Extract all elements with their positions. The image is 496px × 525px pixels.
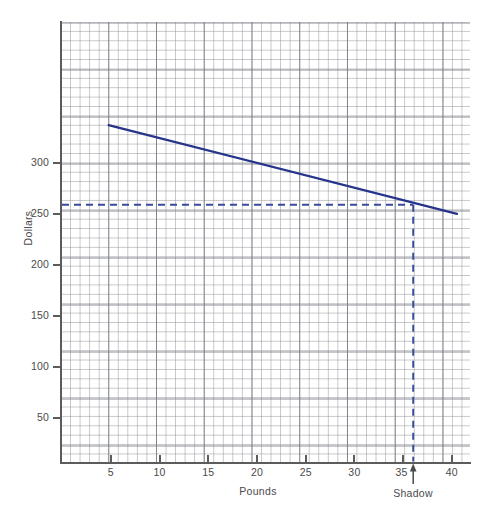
x-tick-25 [305,455,307,464]
x-tick-30 [353,455,355,464]
y-tick-label-100: 100 [0,360,49,372]
y-tick-250 [53,213,62,215]
x-tick-label-40: 40 [432,466,472,478]
x-tick-label-20: 20 [237,466,277,478]
x-tick-label-30: 30 [334,466,374,478]
y-tick-label-50: 50 [0,411,49,423]
y-axis-spine [60,21,62,464]
y-tick-50 [53,417,62,419]
x-tick-15 [207,455,209,464]
x-tick-label-35: 35 [382,466,422,478]
x-tick-label-10: 10 [140,466,180,478]
x-tick-20 [256,455,258,464]
y-axis-title: Dollars [22,200,34,256]
grid-major [61,22,470,463]
shadow-annotation-label: Shadow [373,487,453,499]
x-tick-40 [451,455,453,464]
plot-area [61,22,470,463]
y-tick-100 [53,366,62,368]
y-tick-label-150: 150 [0,309,49,321]
y-tick-300 [53,162,62,164]
x-axis-title: Pounds [198,485,318,497]
x-tick-label-25: 25 [286,466,326,478]
chart-figure: 50 100 150 200 250 300 5 10 15 20 25 30 … [0,0,496,525]
y-tick-label-200: 200 [0,258,49,270]
y-tick-label-300: 300 [0,156,49,168]
x-tick-5 [110,455,112,464]
x-tick-label-5: 5 [91,466,131,478]
x-tick-label-15: 15 [188,466,228,478]
y-tick-200 [53,264,62,266]
x-axis-spine [60,462,471,464]
x-tick-35 [402,455,404,464]
y-tick-150 [53,315,62,317]
x-tick-10 [159,455,161,464]
grid-minor [61,22,470,463]
